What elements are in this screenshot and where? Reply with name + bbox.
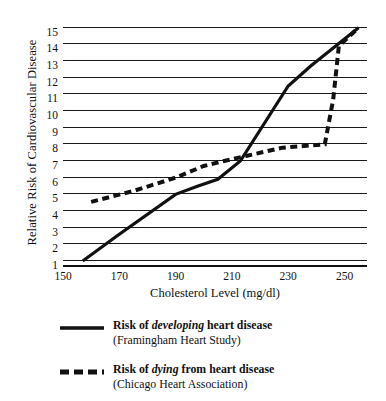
x-tick-label-210: 210 (223, 270, 240, 282)
y-tick-label-11: 11 (47, 94, 58, 106)
legend-item-dying: Risk of dying from heart disease(Chicago… (0, 362, 386, 392)
x-tick-label-170: 170 (111, 270, 128, 282)
plot-region: 123456789101112131415 150170190210230250 (63, 26, 367, 266)
y-tick-label-3: 3 (52, 227, 58, 239)
y-tick-label-8: 8 (52, 144, 58, 156)
chart-legend: Risk of developing heart disease(Framing… (0, 318, 386, 401)
y-tick-label-12: 12 (47, 77, 59, 89)
legend-title: Risk of developing heart disease (113, 318, 386, 333)
legend-title-prefix: Risk of (113, 362, 152, 376)
x-tick-label-250: 250 (336, 270, 353, 282)
legend-text: Risk of developing heart disease(Framing… (113, 318, 386, 348)
y-tick-label-13: 13 (47, 60, 59, 72)
legend-source: (Chicago Heart Association) (113, 377, 386, 392)
y-tick-label-15: 15 (47, 27, 59, 39)
legend-title-emphasis: developing (152, 318, 204, 332)
y-tick-label-10: 10 (47, 110, 59, 122)
x-tick-label-150: 150 (54, 270, 71, 282)
y-tick-label-14: 14 (47, 44, 59, 56)
figure-cardiovascular-risk-chart: Relative Risk of Cardiovascular Disease … (0, 0, 386, 401)
y-tick-label-7: 7 (52, 160, 58, 172)
y-axis-label: Relative Risk of Cardiovascular Disease (25, 18, 40, 268)
legend-item-developing: Risk of developing heart disease(Framing… (0, 318, 386, 348)
legend-title-prefix: Risk of (113, 318, 152, 332)
y-tick-label-4: 4 (52, 210, 58, 222)
data-curves (63, 26, 367, 266)
legend-text: Risk of dying from heart disease(Chicago… (113, 362, 386, 392)
series-line-dying (91, 28, 358, 202)
y-tick-label-2: 2 (52, 244, 58, 256)
x-tick-label-230: 230 (280, 270, 297, 282)
legend-source: (Framingham Heart Study) (113, 333, 386, 348)
legend-title-suffix: from heart disease (179, 362, 275, 376)
x-axis-label: Cholesterol Level (mg/dl) (63, 286, 367, 301)
y-tick-label-5: 5 (52, 194, 58, 206)
x-tick-label-190: 190 (167, 270, 184, 282)
legend-title-emphasis: dying (152, 362, 179, 376)
y-tick-label-9: 9 (52, 127, 58, 139)
chart-area: Relative Risk of Cardiovascular Disease … (0, 0, 386, 300)
legend-title: Risk of dying from heart disease (113, 362, 386, 377)
legend-title-suffix: heart disease (204, 318, 272, 332)
y-tick-label-6: 6 (52, 177, 58, 189)
